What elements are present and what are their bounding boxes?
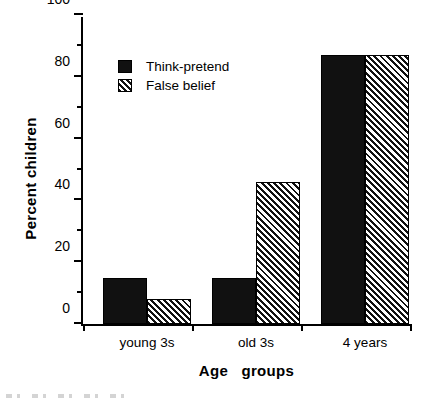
- y-tick-major-80: [74, 75, 83, 77]
- bar-think-pretend-young-3s[interactable]: [103, 278, 147, 324]
- x-tick-label-4-years: 4 years: [343, 335, 387, 350]
- y-tick-minor-50: [77, 168, 83, 170]
- y-tick-major-20: [74, 260, 83, 262]
- legend: Think-pretend False belief: [118, 57, 229, 95]
- y-tick-major-100: [74, 13, 83, 15]
- scan-artifact: [6, 394, 126, 398]
- y-tick-minor-70: [77, 106, 83, 108]
- bar-false-belief-young-3s[interactable]: [147, 299, 191, 324]
- y-tick-major-0: [74, 322, 83, 324]
- y-tick-label-0: 0: [30, 300, 70, 316]
- x-tick-label-young-3s: young 3s: [120, 335, 175, 350]
- y-tick-label-40: 40: [30, 176, 70, 192]
- y-tick-major-60: [74, 137, 83, 139]
- y-tick-label-80: 80: [30, 53, 70, 69]
- legend-item-false-belief[interactable]: False belief: [118, 76, 229, 95]
- y-tick-label-20: 20: [30, 238, 70, 254]
- y-tick-minor-30: [77, 229, 83, 231]
- legend-swatch-hatched-icon: [118, 79, 132, 92]
- x-axis-title: Age groups: [81, 362, 412, 379]
- bar-think-pretend-4-years[interactable]: [321, 55, 365, 324]
- y-tick-label-60: 60: [30, 115, 70, 131]
- legend-label-false-belief: False belief: [146, 78, 215, 93]
- bar-false-belief-old-3s[interactable]: [256, 182, 300, 324]
- bar-false-belief-4-years[interactable]: [365, 55, 409, 324]
- bar-think-pretend-old-3s[interactable]: [212, 278, 256, 324]
- legend-label-think-pretend: Think-pretend: [146, 59, 229, 74]
- y-tick-major-40: [74, 198, 83, 200]
- x-tick-4: [410, 324, 412, 331]
- x-tick-3: [301, 324, 303, 331]
- x-tick-2: [83, 324, 85, 331]
- x-tick-label-old-3s: old 3s: [238, 335, 274, 350]
- y-tick-minor-90: [77, 44, 83, 46]
- legend-swatch-solid-icon: [118, 60, 132, 73]
- figure-bar-chart: Percent children 0 20 40 60 80 100: [0, 0, 442, 398]
- legend-item-think-pretend[interactable]: Think-pretend: [118, 57, 229, 76]
- y-tick-minor-10: [77, 291, 83, 293]
- x-tick-1: [192, 324, 194, 331]
- y-tick-label-100: 100: [30, 0, 70, 7]
